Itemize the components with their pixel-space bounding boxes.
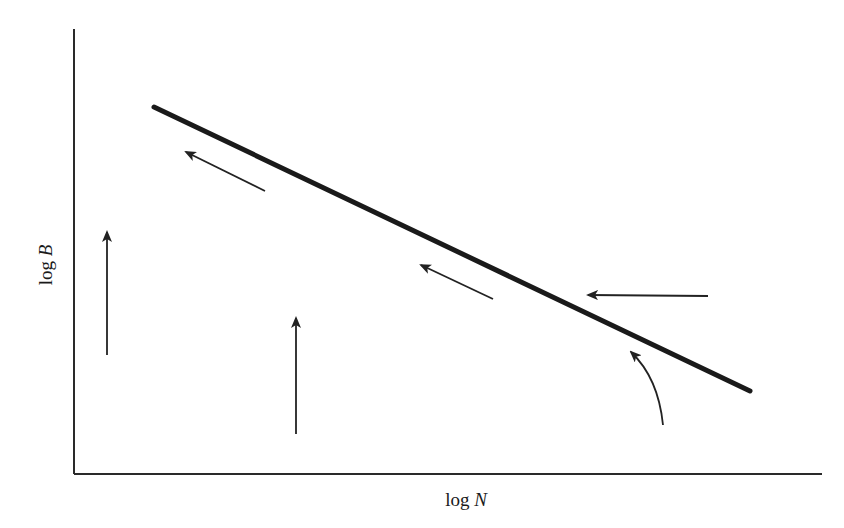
arrow-middle-diagonal: [421, 265, 493, 299]
y-axis-label: log B: [35, 245, 57, 286]
y-axis-label-variable: B: [35, 245, 56, 257]
y-axis-label-prefix: log: [35, 261, 56, 285]
log-b-vs-log-n-diagram: [0, 0, 844, 528]
x-axis-label-prefix: log: [445, 489, 469, 510]
equilibrium-line: [154, 107, 750, 391]
x-axis-label: log N: [445, 489, 487, 511]
arrow-upper-left-diagonal: [186, 152, 265, 191]
arrow-right-curved: [631, 352, 663, 425]
arrow-right-horizontal: [588, 295, 708, 296]
x-axis-label-variable: N: [474, 489, 487, 510]
